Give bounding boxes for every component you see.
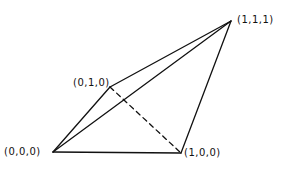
diagram-edges xyxy=(0,0,282,175)
tetrahedron-diagram: (0,0,0) (1,0,0) (0,1,0) (1,1,1) xyxy=(0,0,282,175)
vertex-label-000: (0,0,0) xyxy=(4,146,41,157)
vertex-label-100: (1,0,0) xyxy=(184,147,221,158)
edge-010-111 xyxy=(110,21,231,87)
vertex-label-111: (1,1,1) xyxy=(237,14,274,25)
edge-100-111 xyxy=(181,21,231,153)
edge-000-100 xyxy=(53,152,181,153)
edge-000-010 xyxy=(53,87,110,152)
vertex-label-010: (0,1,0) xyxy=(73,77,110,88)
edge-010-100-hidden xyxy=(110,87,181,153)
